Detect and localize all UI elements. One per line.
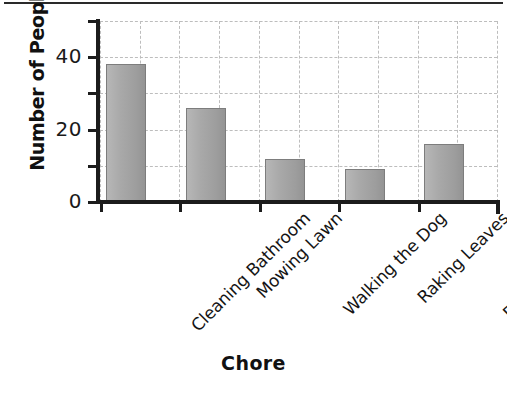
gridline-vertical (259, 21, 260, 202)
bar (265, 159, 305, 202)
x-axis-category-label: Walking the Dog (339, 208, 450, 319)
bar (345, 169, 385, 202)
y-axis-title: Number of People (26, 0, 48, 172)
y-axis-line (96, 19, 100, 204)
x-axis-title: Chore (0, 352, 507, 374)
top-divider-rule (4, 2, 503, 4)
gridline-vertical (338, 21, 339, 202)
gridline-vertical (497, 21, 498, 202)
x-axis-tick (100, 200, 103, 212)
bar (106, 64, 146, 202)
y-axis-tick (88, 56, 100, 59)
y-axis-tick (88, 165, 100, 168)
gridline-vertical (418, 21, 419, 202)
y-axis-tick (88, 20, 100, 23)
bar (424, 144, 464, 202)
x-axis-tick (259, 200, 262, 212)
gridline-vertical (179, 21, 180, 202)
y-axis-tick-label: 0 (36, 189, 82, 213)
gridline-vertical (100, 21, 101, 202)
plot-area (100, 21, 497, 202)
x-axis-tick (179, 200, 182, 212)
x-axis-tick (418, 200, 421, 212)
y-axis-tick (88, 129, 100, 132)
x-axis-tick (338, 200, 341, 212)
y-axis-tick (88, 92, 100, 95)
bar-chart-figure: 40200 Cleaning BathroomMowing LawnWalkin… (0, 0, 507, 397)
x-axis-line (96, 200, 500, 204)
y-axis-tick (88, 201, 100, 204)
bar (186, 108, 226, 202)
